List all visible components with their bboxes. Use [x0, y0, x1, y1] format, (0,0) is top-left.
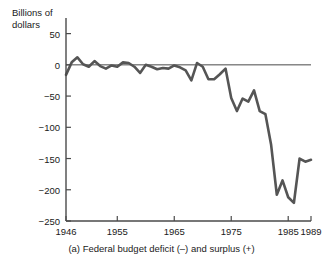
x-axis-ticks: [66, 216, 311, 221]
x-tick-label: 1975: [221, 226, 242, 237]
x-tick-label: 1955: [107, 226, 128, 237]
y-tick-label: 0: [14, 59, 60, 70]
x-tick-label: 1965: [164, 226, 185, 237]
y-axis-ticks: [66, 34, 71, 221]
y-tick-label: −50: [14, 91, 60, 102]
deficit-surplus-line: [66, 57, 311, 203]
chart-canvas: [66, 18, 311, 221]
y-tick-label: −200: [14, 184, 60, 195]
y-tick-label: 50: [14, 28, 60, 39]
y-tick-label: −100: [14, 122, 60, 133]
x-tick-label: 1946: [55, 226, 76, 237]
figure-federal-budget-deficit: Billions of dollars 500−50−100−150−200−2…: [0, 0, 323, 269]
x-tick-label: 1985: [278, 226, 299, 237]
figure-caption: (a) Federal budget deficit (–) and surpl…: [0, 243, 323, 254]
plot-area: [66, 18, 311, 221]
y-tick-label: −150: [14, 153, 60, 164]
y-axis-title: Billions of dollars: [12, 7, 53, 30]
y-tick-label: −250: [14, 216, 60, 227]
x-tick-label: 1989: [300, 226, 321, 237]
